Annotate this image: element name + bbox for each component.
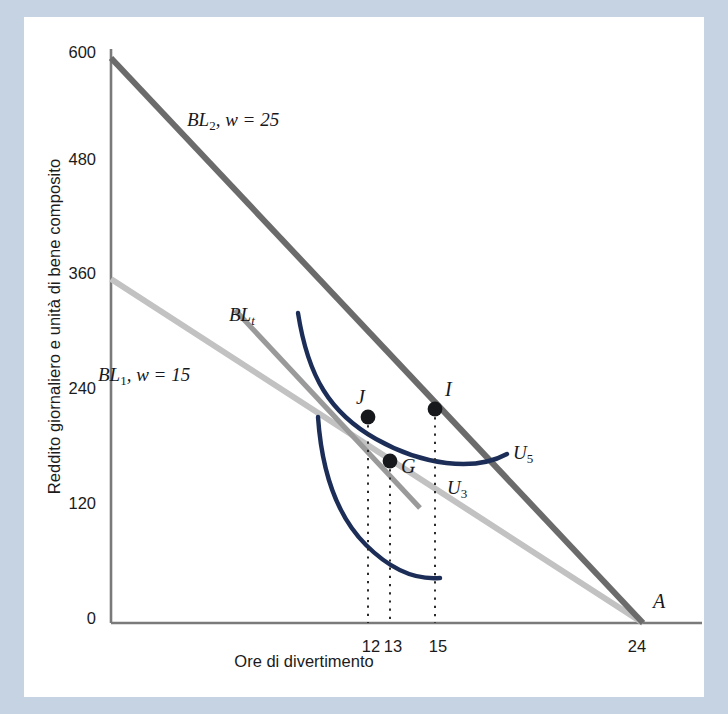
u5-base: U [513,442,527,463]
bl1-wage: w = 15 [131,364,190,385]
blt-annotation: BLt [229,304,255,329]
point-label-i: I [445,378,452,401]
u3-subscript: 3 [461,486,468,501]
u3-base: U [447,477,461,498]
data-point-j [361,410,376,425]
data-point-i [428,402,443,417]
budget-line-bl2 [111,58,643,623]
bl1-annotation: BL1, w = 15 [98,364,190,389]
point-label-g: G [401,455,415,478]
bl2-annotation: BL2, w = 25 [187,109,279,134]
budget-line-bl1 [111,279,643,623]
chart-canvas [24,17,704,697]
blt-base: BL [229,304,251,325]
u5-subscript: 5 [527,451,534,466]
bl1-base: BL [98,364,120,385]
bl2-wage: w = 25 [220,109,279,130]
blt-subscript: t [251,313,255,328]
bl2-base: BL [187,109,209,130]
point-label-a: A [653,590,665,613]
u3-annotation: U3 [447,477,467,502]
point-label-j: J [356,386,365,409]
u5-annotation: U5 [513,442,533,467]
figure-panel: Reddito giornaliero e unità di bene comp… [24,17,704,697]
data-point-g [383,454,398,469]
